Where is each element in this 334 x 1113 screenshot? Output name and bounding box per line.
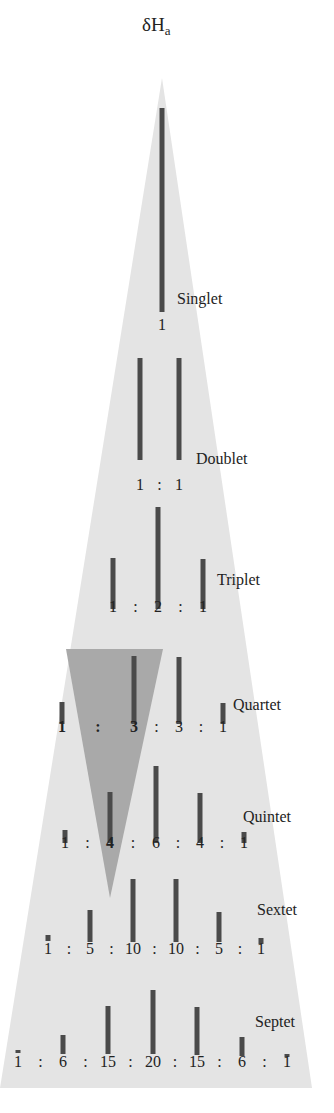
peak-bar [61,1035,66,1054]
ratio-value: 6 [152,834,160,852]
multiplet-label-doublet: Doublet [196,450,248,468]
ratio-separator: : [220,834,224,852]
ratio-value: 6 [59,1053,67,1071]
ratio-value: 20 [145,1053,161,1071]
ratio-value: 1 [109,598,117,616]
ratio-value: 1 [14,1053,22,1071]
peak-bar [160,108,165,312]
ratio-separator: : [133,598,137,616]
ratio-separator: : [262,1053,266,1071]
ratio-value: 10 [168,940,184,958]
peak-bar [88,910,93,942]
ratio-separator: : [195,940,199,958]
ratio-value: 4 [106,834,114,852]
ratio-separator: : [83,1053,87,1071]
ratio-separator: : [128,1053,132,1071]
ratio-separator: : [154,718,158,736]
peak-bar [154,766,159,843]
ratio-value: 2 [154,598,162,616]
ratio-value: 1 [58,718,66,736]
ratio-separator: : [131,834,135,852]
ratio-value: 10 [125,940,141,958]
diagram-title: δHa [142,14,170,39]
multiplet-label-singlet: Singlet [177,290,222,308]
ratio-value: 4 [196,834,204,852]
ratio-value: 1 [199,598,207,616]
ratio-value: 15 [189,1053,205,1071]
ratio-value: 3 [175,718,183,736]
multiplet-label-triplet: Triplet [217,571,260,589]
peak-bar [174,879,179,942]
ratio-separator: : [176,834,180,852]
ratio-separator: : [85,834,89,852]
ratio-value: 1 [283,1053,291,1071]
ratio-separator: : [152,940,156,958]
peak-bar [177,657,182,724]
ratio-separator: : [173,1053,177,1071]
ratio-value: 1 [257,940,265,958]
peak-bar [132,656,137,724]
ratio-separator: : [95,718,100,736]
peak-bar [195,1007,200,1055]
title-symbol: δH [142,14,165,35]
ratio-value: 5 [215,940,223,958]
ratio-value: 15 [100,1053,116,1071]
title-subscript: a [165,23,171,38]
ratio-separator: : [217,1053,221,1071]
ratio-value: 1 [61,834,69,852]
ratio-value: 1 [44,940,52,958]
ratio-value: 3 [130,718,138,736]
ratio-value: 1 [175,476,183,494]
multiplet-label-quintet: Quintet [243,808,291,826]
ratio-separator: : [178,598,182,616]
peak-bar [156,507,161,609]
peak-bar [131,879,136,942]
ratio-value: 6 [238,1053,246,1071]
ratio-separator: : [38,1053,42,1071]
multiplet-label-quartet: Quartet [233,696,281,714]
peak-bar [106,1006,111,1054]
ratio-separator: : [67,940,71,958]
peak-bar [151,990,156,1054]
ratio-separator: : [109,940,113,958]
ratio-value: 1 [158,316,166,334]
multiplet-label-septet: Septet [255,1013,295,1031]
ratio-value: 1 [219,718,227,736]
ratio-value: 1 [240,834,248,852]
ratio-value: 5 [86,940,94,958]
peak-bar [217,912,222,942]
ratio-separator: : [157,476,161,494]
ratio-separator: : [199,718,203,736]
peak-bar [177,358,182,460]
ratio-value: 1 [136,476,144,494]
ratio-separator: : [238,940,242,958]
peak-bar [138,358,143,460]
multiplet-label-sextet: Sextet [257,901,297,919]
